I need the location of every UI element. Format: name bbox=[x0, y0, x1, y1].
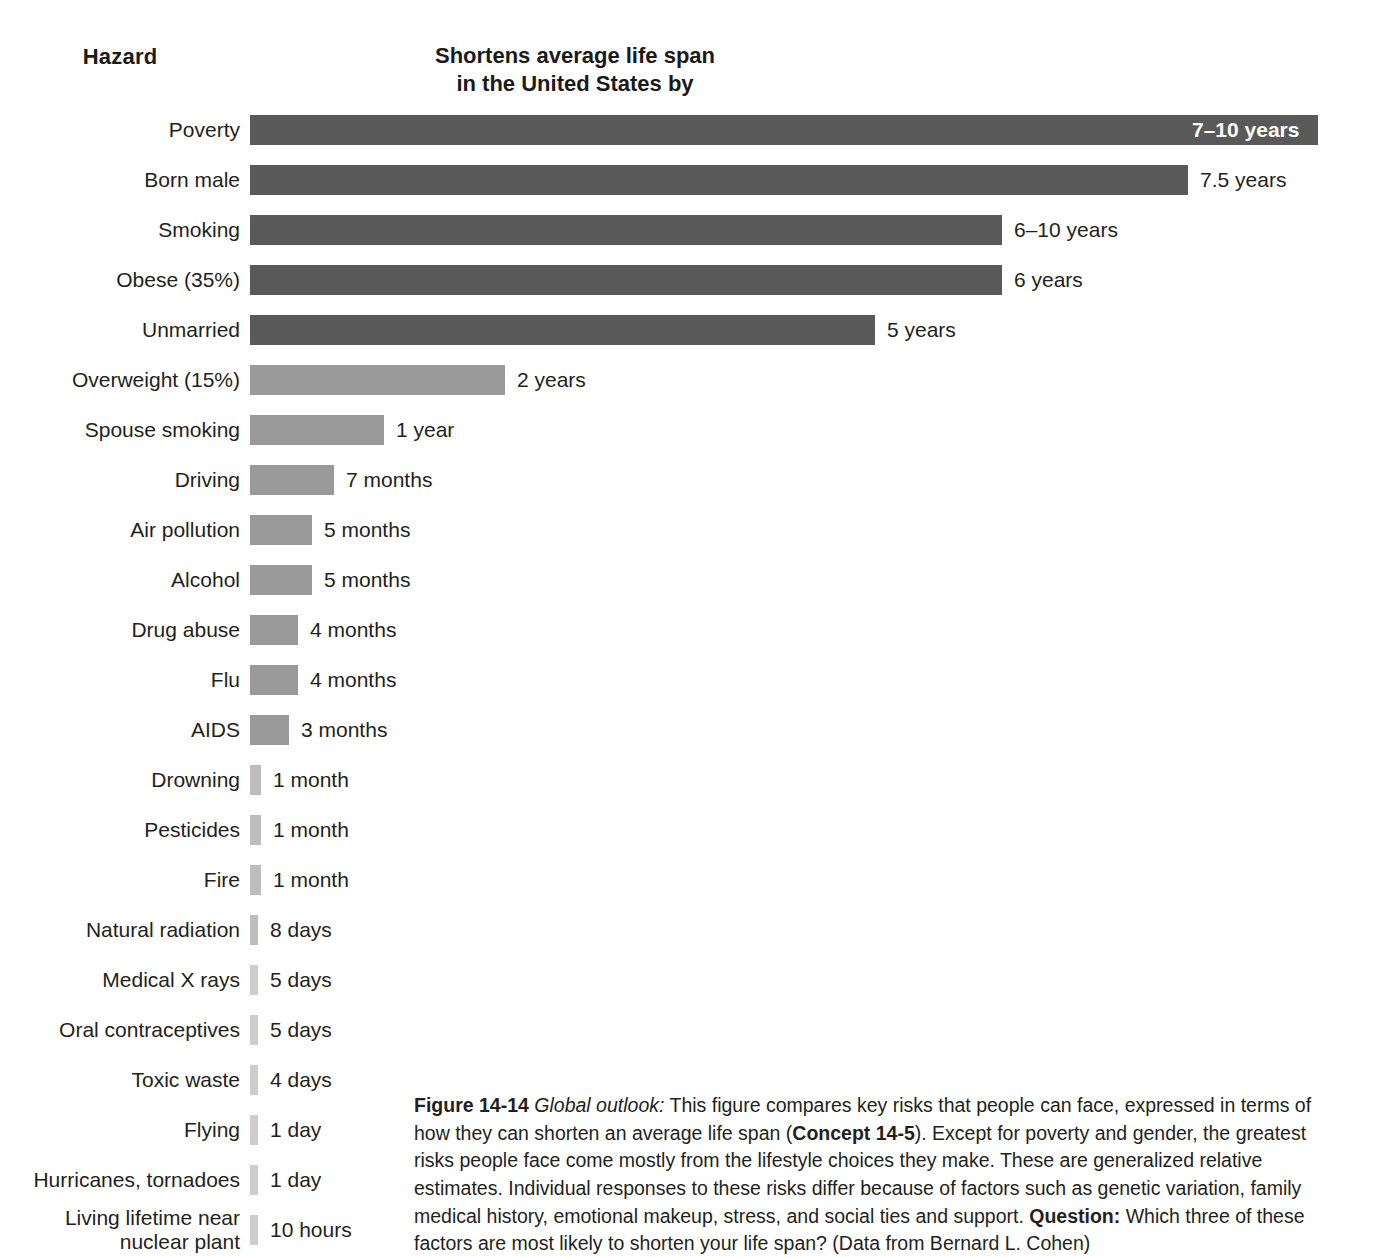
chart-row: Air pollution5 months bbox=[0, 505, 1397, 555]
bar bbox=[250, 1215, 258, 1245]
row-label-unmarried: Unmarried bbox=[0, 318, 240, 342]
bar bbox=[250, 715, 289, 745]
bar-value-label: 1 day bbox=[270, 1118, 321, 1142]
bar bbox=[250, 1065, 258, 1095]
bar-value-label: 5 days bbox=[270, 1018, 332, 1042]
bar-value-label: 5 days bbox=[270, 968, 332, 992]
bar-value-label: 5 years bbox=[887, 318, 956, 342]
row-label-spouse-smoking: Spouse smoking bbox=[0, 418, 240, 442]
caption-figure-number: Figure 14-14 bbox=[414, 1094, 529, 1116]
bar-value-label: 4 months bbox=[310, 618, 396, 642]
chart-row: Overweight (15%)2 years bbox=[0, 355, 1397, 405]
row-label-flu: Flu bbox=[0, 668, 240, 692]
chart-row: Alcohol5 months bbox=[0, 555, 1397, 605]
bar bbox=[250, 365, 505, 395]
row-label-born-male: Born male bbox=[0, 168, 240, 192]
caption-lead-in: Global outlook: bbox=[534, 1094, 664, 1116]
chart-row: Born male7.5 years bbox=[0, 155, 1397, 205]
row-label-medical-x-rays: Medical X rays bbox=[0, 968, 240, 992]
chart-row: Drug abuse4 months bbox=[0, 605, 1397, 655]
bar-value-label: 7 months bbox=[346, 468, 432, 492]
bar-value-label: 1 year bbox=[396, 418, 454, 442]
bar bbox=[250, 115, 1318, 145]
bar bbox=[250, 665, 298, 695]
chart-row: Driving7 months bbox=[0, 455, 1397, 505]
bar-value-label: 1 month bbox=[273, 818, 349, 842]
row-label-living-lifetime-near: Living lifetime nearnuclear plant bbox=[0, 1206, 240, 1253]
row-label-pesticides: Pesticides bbox=[0, 818, 240, 842]
bar bbox=[250, 615, 298, 645]
header-hazard-text: Hazard bbox=[83, 44, 158, 69]
bar bbox=[250, 1165, 258, 1195]
row-label-smoking: Smoking bbox=[0, 218, 240, 242]
row-label-obese-35: Obese (35%) bbox=[0, 268, 240, 292]
bar bbox=[250, 565, 312, 595]
chart-row: Pesticides1 month bbox=[0, 805, 1397, 855]
chart-row: Unmarried5 years bbox=[0, 305, 1397, 355]
row-label-overweight-15: Overweight (15%) bbox=[0, 368, 240, 392]
chart-row: Oral contraceptives5 days bbox=[0, 1005, 1397, 1055]
caption-question-label: Question: bbox=[1029, 1205, 1120, 1227]
bar bbox=[250, 865, 261, 895]
row-label-oral-contraceptives: Oral contraceptives bbox=[0, 1018, 240, 1042]
header-measure-line1: Shortens average life span bbox=[435, 43, 715, 68]
bar-value-label: 4 days bbox=[270, 1068, 332, 1092]
bar bbox=[250, 215, 1002, 245]
bar-value-label: 8 days bbox=[270, 918, 332, 942]
chart-row: Medical X rays5 days bbox=[0, 955, 1397, 1005]
caption-concept-ref: Concept 14-5 bbox=[792, 1122, 914, 1144]
chart-row: Poverty7–10 years bbox=[0, 105, 1397, 155]
bar bbox=[250, 765, 261, 795]
bar-value-label: 4 months bbox=[310, 668, 396, 692]
bar bbox=[250, 315, 875, 345]
bar-value-label: 1 day bbox=[270, 1168, 321, 1192]
bar-value-label: 1 month bbox=[273, 868, 349, 892]
row-label-aids: AIDS bbox=[0, 718, 240, 742]
bar-value-label: 5 months bbox=[324, 568, 410, 592]
bar-value-label: 6 years bbox=[1014, 268, 1083, 292]
bar bbox=[250, 815, 261, 845]
bar bbox=[250, 165, 1188, 195]
row-label-flying: Flying bbox=[0, 1118, 240, 1142]
row-label-hurricanes-tornadoes: Hurricanes, tornadoes bbox=[0, 1168, 240, 1192]
chart-row: Obese (35%)6 years bbox=[0, 255, 1397, 305]
bar-value-label: 6–10 years bbox=[1014, 218, 1118, 242]
row-label-line1: Living lifetime near bbox=[0, 1206, 240, 1230]
row-label-fire: Fire bbox=[0, 868, 240, 892]
bar-value-label: 5 months bbox=[324, 518, 410, 542]
bar bbox=[250, 415, 384, 445]
chart-row: Fire1 month bbox=[0, 855, 1397, 905]
column-header-measure: Shortens average life span in the United… bbox=[400, 42, 750, 97]
row-label-driving: Driving bbox=[0, 468, 240, 492]
bar-value-label: 3 months bbox=[301, 718, 387, 742]
row-label-air-pollution: Air pollution bbox=[0, 518, 240, 542]
bar-value-label: 7.5 years bbox=[1200, 168, 1286, 192]
figure-caption: Figure 14-14 Global outlook: This figure… bbox=[414, 1092, 1314, 1258]
chart-row: Spouse smoking1 year bbox=[0, 405, 1397, 455]
bar bbox=[250, 965, 258, 995]
bar-value-label: 2 years bbox=[517, 368, 586, 392]
bar bbox=[250, 515, 312, 545]
row-label-natural-radiation: Natural radiation bbox=[0, 918, 240, 942]
hazard-bar-chart: Poverty7–10 yearsBorn male7.5 yearsSmoki… bbox=[0, 105, 1397, 1255]
bar-value-label: 10 hours bbox=[270, 1218, 352, 1242]
row-label-line2: nuclear plant bbox=[0, 1230, 240, 1254]
chart-row: Natural radiation8 days bbox=[0, 905, 1397, 955]
row-label-poverty: Poverty bbox=[0, 118, 240, 142]
row-label-toxic-waste: Toxic waste bbox=[0, 1068, 240, 1092]
row-label-drowning: Drowning bbox=[0, 768, 240, 792]
bar bbox=[250, 1115, 258, 1145]
chart-row: Flu4 months bbox=[0, 655, 1397, 705]
bar-value-label: 1 month bbox=[273, 768, 349, 792]
chart-row: AIDS3 months bbox=[0, 705, 1397, 755]
header-measure-line2: in the United States by bbox=[400, 70, 750, 98]
bar bbox=[250, 465, 334, 495]
column-header-hazard: Hazard bbox=[0, 44, 240, 70]
row-label-alcohol: Alcohol bbox=[0, 568, 240, 592]
bar bbox=[250, 915, 258, 945]
bar-value-label: 7–10 years bbox=[1192, 118, 1299, 142]
bar bbox=[250, 265, 1002, 295]
chart-row: Smoking6–10 years bbox=[0, 205, 1397, 255]
row-label-drug-abuse: Drug abuse bbox=[0, 618, 240, 642]
chart-row: Drowning1 month bbox=[0, 755, 1397, 805]
